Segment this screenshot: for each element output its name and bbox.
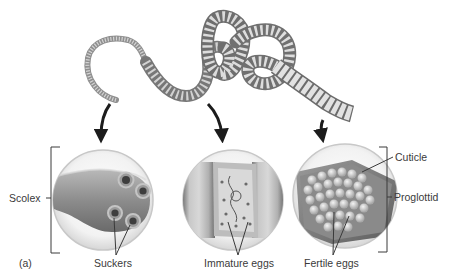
cuticle-label: Cuticle [395, 151, 427, 163]
pointer-arrows [101, 104, 323, 136]
proglottid-label: Proglottid [394, 191, 438, 203]
arrow-to-fertile [321, 120, 323, 136]
fertile-eggs-label: Fertile eggs [304, 257, 359, 269]
suckers-label: Suckers [94, 257, 132, 269]
arrow-to-immature [208, 104, 222, 136]
sucker [136, 184, 150, 198]
sucker [119, 173, 134, 188]
fertile-proglottid-magnified-view [293, 144, 398, 248]
sucker [108, 206, 122, 220]
scolex-magnified-view [50, 150, 153, 250]
tapeworm-diagram [0, 0, 454, 275]
immature-eggs-label: Immature eggs [204, 257, 274, 269]
arrow-to-scolex [101, 104, 110, 136]
panel-label: (a) [19, 257, 32, 269]
scolex-label: Scolex [9, 192, 41, 204]
sucker [126, 214, 140, 228]
immature-proglottid-magnified-view [183, 150, 284, 250]
tapeworm-body [87, 16, 352, 114]
